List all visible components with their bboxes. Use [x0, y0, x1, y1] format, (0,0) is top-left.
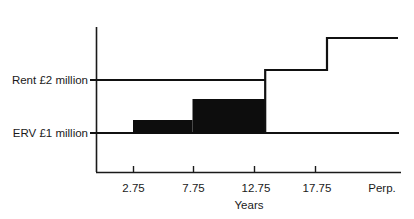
x-axis-title: Years [235, 199, 264, 211]
x-tick-label-1: 7.75 [182, 182, 204, 194]
rent-line-label: Rent £2 million [12, 74, 88, 86]
x-tick-label-4: Perp. [368, 182, 396, 194]
chart-canvas: Rent £2 million ERV £1 million 2.75 7.75… [0, 0, 414, 219]
erv-uplift-bar-0 [133, 120, 193, 134]
step-rent-chart: Rent £2 million ERV £1 million 2.75 7.75… [0, 0, 414, 219]
x-tick-label-3: 17.75 [303, 182, 332, 194]
x-tick-label-0: 2.75 [122, 182, 144, 194]
x-tick-label-2: 12.75 [242, 182, 271, 194]
erv-line-label: ERV £1 million [13, 127, 88, 139]
erv-uplift-bar-1 [193, 99, 266, 134]
